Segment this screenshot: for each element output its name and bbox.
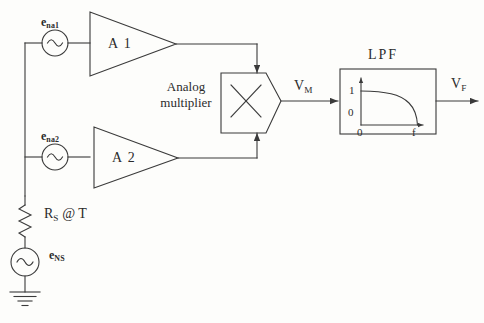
resistor-rs-zigzag (19, 205, 31, 237)
label-node-vm: VM (294, 79, 313, 93)
circuit-diagram-svg (0, 0, 484, 323)
lpf-plot-xtick-f: f (412, 127, 416, 138)
multiplier-block-outline (221, 73, 281, 133)
label-amp-a2: A 2 (112, 151, 136, 165)
label-analog-multiplier-line1: Analog (155, 80, 217, 93)
label-node-vf: VF (451, 77, 466, 91)
label-analog-multiplier-line2: multiplier (155, 96, 217, 109)
label-analog-multiplier: Analog multiplier (155, 80, 217, 109)
source-en2-sine (48, 154, 63, 161)
lpf-response-curve (361, 91, 418, 125)
source-ens-sine (17, 259, 33, 266)
lpf-block-outline (340, 69, 436, 134)
diagram-canvas: ena1 ena2 A 1 A 2 RS @ T eNS Analog mult… (0, 0, 484, 323)
source-en1-sine (48, 40, 63, 47)
lpf-plot-ytick-0: 0 (348, 107, 354, 118)
lpf-plot-ytick-1: 1 (349, 85, 355, 96)
amp-a1-triangle (90, 12, 176, 76)
lpf-plot-xtick-origin: 0 (357, 127, 363, 138)
label-lpf: LPF (368, 48, 398, 62)
label-resistor-rs: RS @ T (44, 207, 87, 221)
label-source-ens: eNS (49, 249, 65, 261)
label-amp-a1: A 1 (108, 37, 132, 51)
label-source-en2: ena2 (41, 130, 59, 142)
label-source-en1: ena1 (41, 16, 59, 28)
